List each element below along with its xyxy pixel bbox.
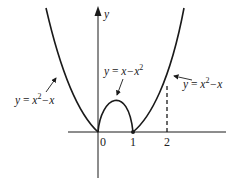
graph-diagram: y 0 1 2 y = x2−x y = x−x2 y = x2−x: [0, 0, 238, 189]
arrow-hump-label: [117, 79, 123, 95]
svg-text:y = x2−x: y = x2−x: [14, 92, 55, 107]
svg-text:y = x2−x: y = x2−x: [182, 76, 223, 91]
curve-left-branch: [46, 8, 98, 132]
tick-label-2: 2: [164, 135, 170, 149]
label-left-branch: y = x2−x: [14, 92, 55, 107]
y-axis-arrow-icon: [95, 6, 102, 16]
arrow-left-label: [46, 78, 56, 92]
point-x1: [131, 130, 135, 134]
label-hump: y = x−x2: [103, 63, 143, 78]
svg-text:y = x−x2: y = x−x2: [103, 63, 143, 78]
tick-label-0: 0: [100, 135, 106, 149]
y-axis-label: y: [103, 8, 110, 21]
tick-label-1: 1: [130, 135, 136, 149]
curve-hump: [98, 100, 133, 132]
label-right-branch: y = x2−x: [182, 76, 223, 91]
